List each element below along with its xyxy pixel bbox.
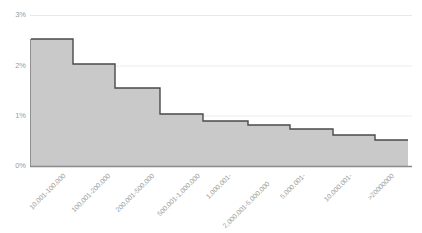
step-area-chart: 3% 2% 1% 0% 10,001-100,000 100,001-200,0… (0, 0, 422, 233)
step-area-fill (31, 39, 408, 166)
